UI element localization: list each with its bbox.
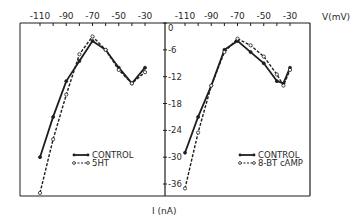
open-circle-marker: [130, 82, 133, 85]
filled-dot-marker: [275, 80, 278, 83]
x-tick-label: -90: [204, 11, 219, 21]
x-tick-label: -30: [138, 11, 153, 21]
open-circle-marker: [104, 48, 107, 51]
legend-open-circle: [87, 162, 90, 165]
y-tick-label: 0: [168, 23, 173, 33]
right-panel: -110-90-70-50-30CONTROL8-BT cAMP: [165, 11, 310, 196]
open-circle-marker: [275, 73, 278, 76]
legend-label-treatment: 5HT: [92, 158, 110, 168]
x-axis-label: V(mV): [322, 12, 350, 22]
x-tick-label: -70: [230, 11, 245, 21]
y-tick-label: -6: [168, 45, 176, 55]
open-circle-marker: [249, 44, 252, 47]
y-tick-label: -12: [168, 72, 182, 82]
left-panel: -110-90-70-50-30CONTROL5HT: [20, 11, 165, 196]
open-circle-marker: [65, 93, 68, 96]
open-circle-marker: [282, 84, 285, 87]
filled-dot-marker: [91, 39, 94, 42]
y-tick-label: -36: [168, 179, 182, 189]
y-tick-label: -24: [168, 125, 182, 135]
open-circle-marker: [143, 71, 146, 74]
legend-open-circle: [73, 162, 76, 165]
x-tick-label: -110: [175, 11, 196, 21]
shared-y-axis: 0-6-12-18-24-30-36: [163, 23, 182, 196]
legend-dot: [73, 154, 76, 157]
filled-dot-marker: [249, 51, 252, 54]
figure: -110-90-70-50-30CONTROL5HT -110-90-70-50…: [0, 0, 351, 219]
x-tick-label: -50: [256, 11, 271, 21]
legend-open-circle: [239, 162, 242, 165]
x-tick-label: -50: [111, 11, 126, 21]
open-circle-marker: [117, 68, 120, 71]
x-tick-label: -70: [85, 11, 100, 21]
legend-dot: [253, 154, 256, 157]
filled-dot-marker: [197, 115, 200, 118]
legend-label-treatment: 8-BT cAMP: [258, 158, 303, 168]
legend-open-circle: [253, 162, 256, 165]
legend-dot: [239, 154, 242, 157]
treatment-line: [40, 36, 145, 193]
filled-dot-marker: [39, 156, 42, 159]
y-tick-label: -18: [168, 99, 182, 109]
open-circle-marker: [197, 131, 200, 134]
x-tick-label: -30: [283, 11, 298, 21]
open-circle-marker: [52, 138, 55, 141]
filled-dot-marker: [78, 60, 81, 63]
legend-dot: [87, 154, 90, 157]
filled-dot-marker: [52, 115, 55, 118]
open-circle-marker: [288, 68, 291, 71]
x-tick-label: -90: [59, 11, 74, 21]
filled-dot-marker: [184, 151, 187, 154]
y-tick-label: -30: [168, 152, 182, 162]
open-circle-marker: [210, 84, 213, 87]
open-circle-marker: [262, 55, 265, 58]
filled-dot-marker: [65, 80, 68, 83]
open-circle-marker: [91, 35, 94, 38]
open-circle-marker: [223, 50, 226, 53]
control-line: [185, 41, 290, 153]
filled-dot-marker: [144, 66, 147, 69]
filled-dot-marker: [262, 62, 265, 65]
open-circle-marker: [236, 37, 239, 40]
control-line: [40, 41, 145, 157]
open-circle-marker: [38, 191, 41, 194]
x-tick-label: -110: [30, 11, 51, 21]
y-axis-label: I (nA): [152, 206, 176, 216]
open-circle-marker: [78, 53, 81, 56]
open-circle-marker: [183, 187, 186, 190]
